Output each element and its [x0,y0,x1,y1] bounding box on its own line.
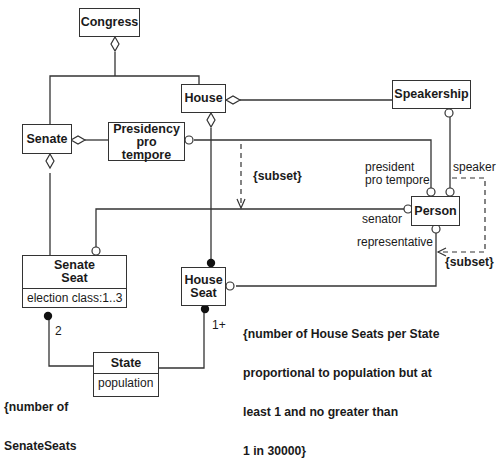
role-representative: representative [357,236,433,249]
class-name-line2: Seat [190,287,216,300]
role-speaker: speaker [453,161,496,174]
congress-senate-house-link [50,76,199,124]
note-line: SenateSeats [4,440,84,453]
circle-person-president [427,188,435,196]
aggregation-diamond-senate-presidency [71,136,85,144]
circle-speakership-end [445,109,453,117]
class-name: State [94,353,158,373]
aggregation-diamond-senate-seat [46,154,54,168]
class-name: Senate [23,125,71,153]
class-name: House Seat [182,268,225,305]
filled-circle-houseseat-top [207,259,215,267]
class-person: Person [411,196,460,226]
note-line: proportional to population but at [243,367,439,380]
class-name: Presidency pro tempore [109,123,184,162]
class-attribute: population [94,373,158,396]
class-congress: Congress [79,8,140,37]
constraint-subset-right: {subset} [445,256,494,269]
filled-circle-senateseat-bottom [44,312,52,320]
class-name: Speakership [393,81,470,108]
class-attribute: election class:1..3 [23,288,126,307]
class-name: House [182,85,225,112]
multiplicity-house-seat: 1+ [212,319,226,332]
note-line: {number of [4,401,84,414]
class-state: State population [93,352,159,397]
role-label-line2: pro tempore [365,174,430,187]
note-line: {number of House Seats per State [243,328,439,341]
class-presidency-pro-tempore: Presidency pro tempore [108,122,185,161]
constraint-subset-left: {subset} [253,170,302,183]
note-line: 1 in 30000} [243,445,439,458]
class-name-line2: pro tempore [112,136,181,162]
circle-senateseat-senator [92,247,100,255]
circle-houseseat-representative [226,282,234,290]
state-houseseat-link [158,313,204,368]
multiplicity-senate-seat: 2 [55,325,62,338]
class-name-line2: Seat [61,272,87,285]
class-name: Senate Seat [23,256,126,288]
role-senator: senator [362,213,402,226]
constraint-house-seats: {number of House Seats per State proport… [243,302,439,464]
class-name: Person [412,197,459,225]
circle-person-speaker [446,188,454,196]
aggregation-diamond-congress [111,37,119,51]
circle-presidency-end [185,136,193,144]
role-president-pro-tempore: president pro tempore [365,161,430,187]
constraint-senate-seats: {number of SenateSeats in each election … [4,375,84,464]
class-senate: Senate [22,124,72,154]
class-name: Congress [80,9,139,36]
note-line: least 1 and no greater than [243,406,439,419]
class-name-line1: House [184,274,222,287]
class-house: House [181,84,226,113]
aggregation-diamond-house-speakership [226,96,240,104]
state-senateseat-link [49,314,93,366]
class-speakership: Speakership [392,80,471,109]
aggregation-diamond-house-seat [207,113,215,127]
circle-person-representative [432,225,440,233]
class-house-seat: House Seat [181,267,226,306]
class-senate-seat: Senate Seat election class:1..3 [22,255,127,308]
filled-circle-houseseat-bottom [201,305,209,313]
